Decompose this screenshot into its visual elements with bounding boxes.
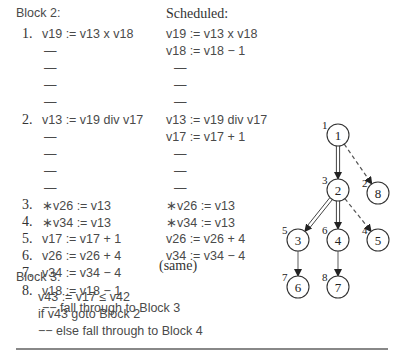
edge-2-3 xyxy=(305,198,333,232)
graph-node-1: 11 xyxy=(322,119,349,146)
graph-node-3: 35 xyxy=(282,224,309,251)
edge-1-2 xyxy=(336,146,339,179)
node-label: 3 xyxy=(295,233,302,248)
node-priority: 6 xyxy=(322,224,328,236)
node-label: 5 xyxy=(375,233,382,248)
node-label: 7 xyxy=(335,280,342,295)
edge-1-8 xyxy=(344,144,372,184)
graph-node-6: 67 xyxy=(282,271,309,298)
edge-2-4 xyxy=(336,201,339,229)
node-label: 6 xyxy=(295,280,302,295)
node-priority: 2 xyxy=(362,177,368,189)
node-label: 2 xyxy=(335,183,342,198)
graph-node-8: 82 xyxy=(362,177,389,204)
dependence-dag: 1123823546546778 xyxy=(0,0,400,358)
node-label: 8 xyxy=(375,186,382,201)
node-label: 1 xyxy=(335,128,342,143)
node-priority: 3 xyxy=(322,174,328,186)
node-priority: 1 xyxy=(322,119,328,131)
graph-node-4: 46 xyxy=(322,224,349,251)
graph-node-7: 78 xyxy=(322,271,349,298)
graph-node-2: 23 xyxy=(322,174,349,201)
node-priority: 7 xyxy=(282,271,288,283)
graph-node-5: 54 xyxy=(362,224,389,251)
node-priority: 4 xyxy=(362,224,368,236)
node-label: 4 xyxy=(335,233,342,248)
node-priority: 5 xyxy=(282,224,288,236)
node-priority: 8 xyxy=(322,271,328,283)
